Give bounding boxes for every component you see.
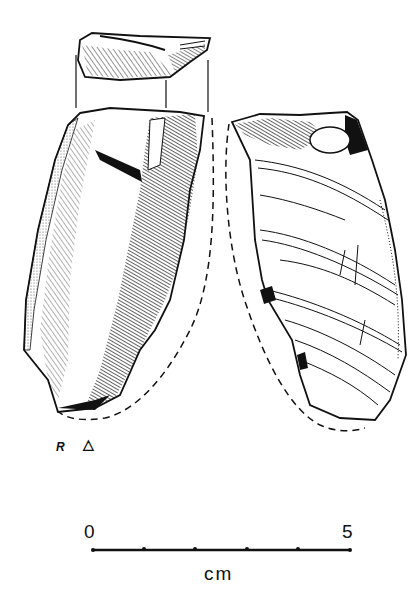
dorsal-view bbox=[24, 108, 213, 420]
artifact-drawing bbox=[0, 0, 420, 615]
scale-end-label: 5 bbox=[342, 521, 353, 543]
side-label: R bbox=[56, 440, 65, 454]
scale-unit-label: cm bbox=[204, 563, 233, 585]
scale-bar bbox=[91, 547, 352, 552]
scale-start-label: 0 bbox=[84, 521, 95, 543]
triangle-marker-icon: △ bbox=[83, 436, 94, 452]
platform-view bbox=[76, 33, 210, 112]
ventral-view bbox=[226, 112, 406, 431]
